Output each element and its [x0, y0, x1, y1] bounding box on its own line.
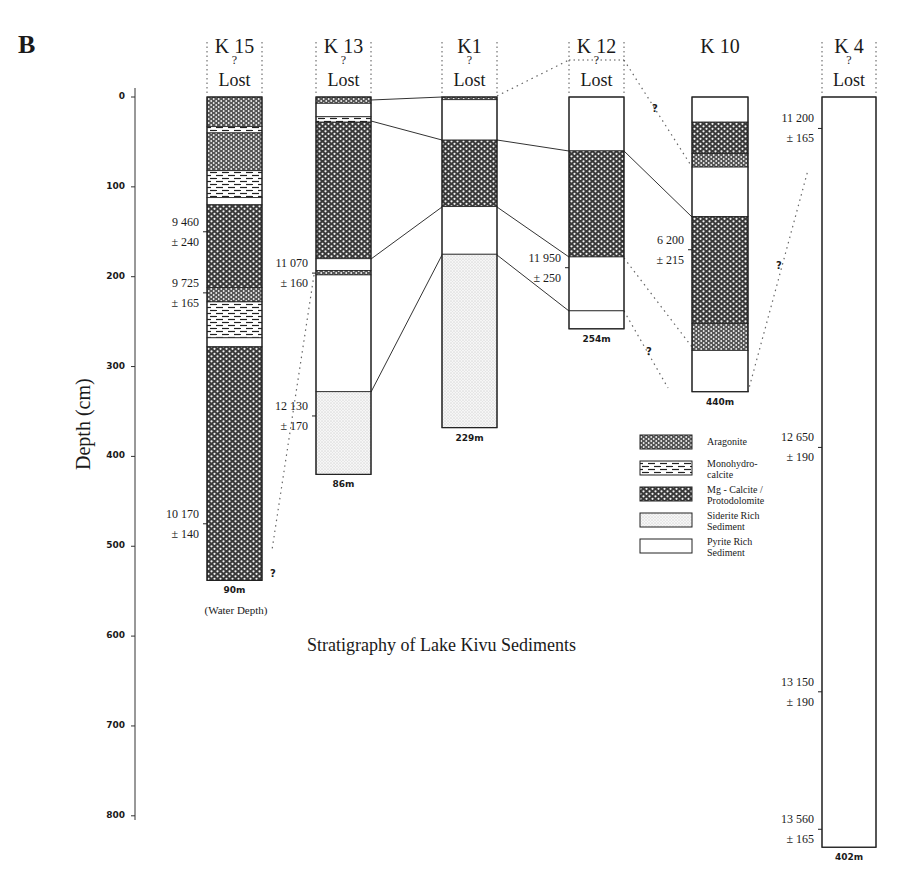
date-age: 13 560 — [742, 809, 814, 829]
layer-monohydrocalcite — [207, 171, 262, 198]
layer-aragonite — [316, 270, 371, 274]
axis-tick-label: 400 — [95, 450, 125, 460]
water-depth-label: 229m — [442, 433, 497, 443]
radiocarbon-date: 12 130± 170 — [236, 396, 308, 436]
legend — [640, 435, 692, 553]
radiocarbon-date: 6 200± 215 — [612, 230, 684, 270]
layer-mgcalcite — [692, 217, 748, 324]
date-error: ± 215 — [612, 250, 684, 270]
legend-label-siderite: Siderite Rich Sediment — [707, 510, 760, 532]
water-depth-label: 402m — [822, 852, 876, 862]
layer-pyrite — [692, 350, 748, 391]
axis-title: Depth (cm) — [72, 378, 95, 470]
layer-pyrite — [316, 103, 371, 116]
date-age: 9 460 — [127, 212, 199, 232]
radiocarbon-date: 10 170± 140 — [127, 504, 199, 544]
layer-mgcalcite — [316, 122, 371, 259]
uncertain-top-marker: ? — [442, 56, 497, 66]
legend-label-aragonite: Aragonite — [707, 436, 747, 447]
lost-label: Lost — [442, 70, 497, 90]
water-depth-label: 90m — [207, 585, 262, 595]
radiocarbon-date: 9 725± 165 — [127, 273, 199, 313]
layer-aragonite — [692, 154, 748, 167]
date-error: ± 165 — [742, 829, 814, 849]
layer-monohydrocalcite — [207, 127, 262, 133]
legend-label-pyrite: Pyrite Rich Sediment — [707, 536, 752, 558]
date-error: ± 250 — [489, 268, 561, 288]
radiocarbon-date: 11 070± 160 — [236, 253, 308, 293]
legend-label-mgcalcite: Mg - Calcite / Protodolomite — [707, 484, 764, 506]
uncertain-top-marker: ? — [569, 56, 624, 66]
date-age: 13 150 — [742, 672, 814, 692]
date-error: ± 190 — [742, 692, 814, 712]
radiocarbon-date: 11 200± 165 — [742, 108, 814, 148]
core-column-k10 — [692, 97, 748, 392]
date-age: 10 170 — [127, 504, 199, 524]
radiocarbon-date: 13 150± 190 — [742, 672, 814, 712]
layer-mgcalcite — [442, 140, 497, 206]
layer-pyrite — [822, 97, 876, 847]
core-header: K 12?Lost — [569, 36, 624, 90]
date-age: 9 725 — [127, 273, 199, 293]
layer-siderite — [316, 392, 371, 475]
layer-mgcalcite — [692, 122, 748, 153]
radiocarbon-date: 9 460± 240 — [127, 212, 199, 252]
uncertain-top-marker: ? — [316, 56, 371, 66]
axis-tick-label: 100 — [95, 181, 125, 191]
legend-swatch-monohydrocalcite — [640, 461, 692, 475]
date-error: ± 240 — [127, 232, 199, 252]
radiocarbon-date: 11 950± 250 — [489, 248, 561, 288]
uncertain-top-marker: ? — [822, 56, 876, 66]
layer-monohydrocalcite — [207, 302, 262, 338]
lost-label: Lost — [822, 70, 876, 90]
uncertain-top-marker: ? — [207, 56, 262, 66]
uncertain-marker: ? — [646, 346, 652, 357]
date-age: 12 130 — [236, 396, 308, 416]
layer-pyrite — [569, 311, 624, 329]
lost-label: Lost — [207, 70, 262, 90]
core-header: K 15?Lost — [207, 36, 262, 90]
layer-pyrite — [316, 275, 371, 392]
water-depth-label: 86m — [316, 479, 371, 489]
legend-swatch-aragonite — [640, 435, 692, 449]
date-age: 6 200 — [612, 230, 684, 250]
core-header: K 10 — [692, 36, 748, 56]
radiocarbon-date: 13 560± 165 — [742, 809, 814, 849]
core-column-k4 — [822, 97, 876, 847]
water-depth-label: 440m — [692, 397, 748, 407]
date-error: ± 140 — [127, 524, 199, 544]
date-error: ± 170 — [236, 416, 308, 436]
layer-pyrite — [569, 97, 624, 151]
core-column-k12 — [569, 97, 624, 329]
core-column-k15 — [207, 97, 262, 580]
legend-swatch-siderite — [640, 513, 692, 527]
legend-swatch-pyrite — [640, 539, 692, 553]
axis-tick-label: 300 — [95, 361, 125, 371]
lost-label: Lost — [316, 70, 371, 90]
water-depth-caption: (Water Depth) — [196, 604, 276, 616]
axis-tick-label: 200 — [95, 271, 125, 281]
date-error: ± 165 — [127, 293, 199, 313]
date-age: 12 650 — [742, 427, 814, 447]
axis-tick-label: 800 — [95, 810, 125, 820]
layer-pyrite — [442, 100, 497, 140]
lost-label: Lost — [569, 70, 624, 90]
uncertain-marker: ? — [270, 568, 276, 579]
layer-pyrite — [207, 198, 262, 205]
layer-pyrite — [316, 259, 371, 271]
water-depth-label: 254m — [569, 334, 624, 344]
axis-tick-label: 700 — [95, 720, 125, 730]
core-name: K 10 — [692, 36, 748, 56]
layer-aragonite — [207, 133, 262, 171]
layer-pyrite — [692, 167, 748, 216]
layer-aragonite — [316, 97, 371, 103]
layer-pyrite — [692, 97, 748, 122]
axis-tick-label: 0 — [95, 91, 125, 101]
layer-monohydrocalcite — [316, 117, 371, 122]
core-header: K1?Lost — [442, 36, 497, 90]
uncertain-marker: ? — [776, 260, 782, 271]
layer-aragonite — [207, 97, 262, 127]
layer-mgcalcite — [207, 347, 262, 581]
uncertain-marker: ? — [652, 103, 658, 114]
axis-tick-label: 600 — [95, 630, 125, 640]
